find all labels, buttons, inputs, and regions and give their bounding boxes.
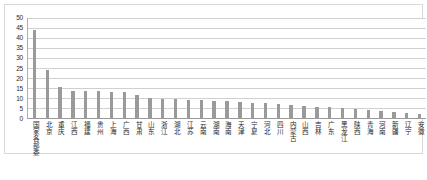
bar [33,30,36,119]
bar [354,109,357,119]
bar [315,107,318,119]
x-axis-tick-label: 湖北 [172,121,179,135]
bars-container [28,18,426,119]
y-axis-tick-label: 50 [16,15,23,22]
x-axis-tick-label: 辽宁 [403,121,410,135]
bar [328,107,331,119]
x-axis-tick-label: 广西 [121,121,128,135]
x-axis: 国家各部委北京重庆江西福建贵州上海广西甘肃山东浙江湖北江苏云南湖南海南天津宁夏河… [28,121,426,180]
bar [367,110,370,119]
bar [264,103,267,119]
y-axis-tick-label: 20 [16,75,23,82]
x-axis-tick-label: 陕西 [352,121,359,135]
bar [161,99,164,119]
x-axis-tick-label: 浙江 [159,121,166,135]
x-axis-tick-label: 天津 [236,121,243,135]
x-axis-tick-label: 吉林 [313,121,320,135]
x-axis-tick-label: 江西 [70,121,77,135]
x-axis-tick-label: 甘肃 [134,121,141,135]
x-axis-tick-label: 河南 [378,121,385,135]
bar [200,100,203,119]
x-axis-tick-label: 河北 [262,121,269,135]
x-axis-tick-label: 新疆 [390,121,397,135]
bar [71,91,74,119]
x-axis-tick-label: 广东 [326,121,333,135]
x-axis-tick-label: 宁夏 [249,121,256,135]
x-axis-tick-label: 四川 [275,121,282,135]
x-axis-tick-label: 山西 [301,121,308,135]
x-axis-tick-label: 山东 [147,121,154,135]
y-axis-tick-label: 25 [16,65,23,72]
bar [392,112,395,119]
bar [148,98,151,119]
bar [251,103,254,119]
x-axis-tick-label: 云南 [198,121,205,135]
x-axis-tick-label: 上海 [108,121,115,135]
bar [212,101,215,119]
x-axis-tick-label: 海南 [224,121,231,135]
bar [97,91,100,119]
x-axis-tick-label: 国家各部委 [31,121,38,156]
bar [238,102,241,119]
bar [84,91,87,119]
bar-chart-figure: 05101520253035404550 国家各部委北京重庆江西福建贵州上海广西… [0,0,427,180]
bar [225,101,228,119]
x-axis-tick-label: 江苏 [185,121,192,135]
x-axis-tick-label: 湖南 [211,121,218,135]
x-axis-tick-label: 青海 [365,121,372,135]
x-axis-tick-label: 黑龙江 [339,121,346,142]
bar [46,70,49,119]
x-axis-tick-label: 北京 [44,121,51,135]
bar [110,92,113,119]
bar [135,95,138,119]
bar [302,106,305,119]
y-axis-tick-label: 0 [20,116,23,123]
bar [174,99,177,119]
bar [379,111,382,119]
bar [58,87,61,119]
x-axis-tick-label: 安徽 [416,121,423,135]
y-axis-tick-label: 5 [20,106,23,113]
y-axis-tick-label: 40 [16,35,23,42]
bar [123,92,126,119]
bar [289,105,292,119]
bar [187,100,190,119]
x-axis-tick-label: 贵州 [95,121,102,135]
y-axis-tick-label: 10 [16,96,23,103]
y-axis-tick-label: 35 [16,45,23,52]
bar [418,114,421,119]
chart-frame: 05101520253035404550 国家各部委北京重庆江西福建贵州上海广西… [4,4,423,154]
x-axis-tick-label: 重庆 [57,121,64,135]
x-axis-tick-label: 福建 [82,121,89,135]
bar [341,108,344,119]
bar [277,104,280,119]
x-axis-tick-label: 内蒙古 [288,121,295,142]
bar [405,113,408,119]
y-axis-tick-label: 45 [16,25,23,32]
y-axis-tick-label: 30 [16,55,23,62]
y-axis: 05101520253035404550 [5,13,25,125]
y-axis-tick-label: 15 [16,85,23,92]
